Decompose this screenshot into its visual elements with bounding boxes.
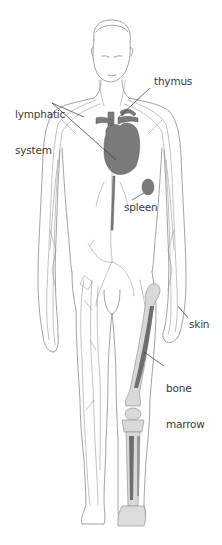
tibia-bone [126, 432, 140, 506]
spleen-organ [142, 179, 154, 195]
label-thymus: thymus [154, 75, 192, 87]
label-lymphatic-system-line1: lymphatic [15, 108, 65, 120]
label-bone-marrow-line2: marrow [166, 418, 205, 430]
label-skin: skin [189, 318, 209, 330]
foot-bones [118, 506, 146, 526]
knee-joint [122, 408, 144, 432]
label-lymphatic-system-line2: system [15, 144, 65, 156]
label-bone-marrow-line1: bone [166, 382, 205, 394]
label-lymphatic-system: lymphatic system [15, 84, 65, 168]
label-bone-marrow: bone marrow [166, 358, 205, 442]
leader-line-skin [178, 306, 188, 318]
label-spleen: spleen [124, 201, 157, 213]
leader-line-spleen [132, 193, 144, 200]
